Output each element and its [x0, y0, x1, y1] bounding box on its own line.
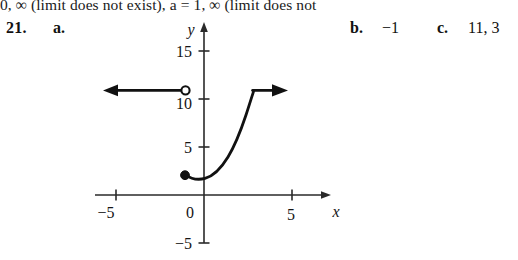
- x-tick-label-neg5: −5: [97, 204, 114, 221]
- answer-number: 21.: [6, 19, 27, 37]
- answer-part-b-value: −1: [382, 19, 399, 37]
- middle-branch-curve: [186, 92, 254, 180]
- answer-part-c-label: c.: [437, 19, 448, 37]
- right-ray-arrowhead: [272, 84, 288, 96]
- y-tick-label-5: 5: [184, 139, 192, 156]
- right-branch-ray: [253, 84, 288, 96]
- graph-svg: −5 0 5 15 10 5 −5 x y: [95, 18, 345, 260]
- answer-part-b-label: b.: [350, 19, 363, 37]
- y-axis-arrowhead: [200, 22, 208, 32]
- left-ray-arrowhead: [103, 85, 118, 97]
- open-circle-marker: [181, 86, 189, 94]
- axes-group: [95, 22, 331, 243]
- answer-part-c-value: 11, 3: [468, 19, 499, 37]
- x-axis-label: x: [331, 203, 339, 220]
- closed-dot-marker: [181, 171, 190, 180]
- x-axis-arrowhead: [321, 191, 331, 199]
- y-tick-label-neg5: −5: [175, 235, 192, 252]
- y-tick-label-15: 15: [176, 43, 192, 60]
- continuation-text: 0, ∞ (limit does not exist), a = 1, ∞ (l…: [0, 0, 518, 16]
- answer-key-page: 0, ∞ (limit does not exist), a = 1, ∞ (l…: [0, 0, 518, 260]
- y-axis-label: y: [185, 21, 195, 39]
- x-tick-label-pos5: 5: [287, 206, 295, 223]
- continuation-text-line: 0, ∞ (limit does not exist), a = 1, ∞ (l…: [0, 0, 518, 16]
- piecewise-function-graph: −5 0 5 15 10 5 −5 x y: [95, 18, 345, 260]
- answer-part-a-label: a.: [53, 19, 65, 37]
- tick-labels-group: −5 0 5 15 10 5 −5: [97, 43, 295, 252]
- left-branch-ray: [103, 85, 185, 97]
- y-tick-label-10: 10: [176, 95, 192, 112]
- x-tick-label-0: 0: [186, 204, 194, 221]
